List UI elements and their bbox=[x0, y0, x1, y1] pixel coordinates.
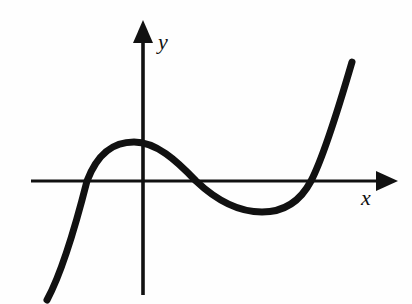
y-axis-arrowhead bbox=[133, 20, 153, 43]
x-axis-arrowhead bbox=[376, 171, 398, 191]
figure-root: y x bbox=[0, 0, 412, 304]
x-axis-label: x bbox=[361, 187, 371, 209]
cubic-graph-svg bbox=[0, 0, 412, 304]
y-axis-label: y bbox=[158, 31, 168, 53]
